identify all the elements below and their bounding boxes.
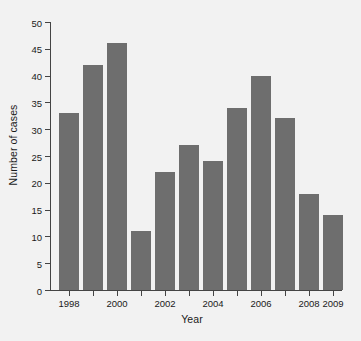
y-axis-tick-label: 45: [31, 44, 42, 55]
x-axis-tick-label: 2006: [250, 298, 271, 309]
x-axis-tick: [261, 291, 262, 296]
x-axis-tick: [309, 291, 310, 296]
y-axis-tick-label: 20: [31, 178, 42, 189]
plot-area: 05101520253035404550 1998200020022004200…: [50, 22, 345, 290]
y-axis-tick: 20: [45, 183, 50, 184]
bar: [203, 161, 223, 290]
x-axis-tick: [213, 291, 214, 296]
bar: [323, 215, 343, 290]
y-axis-tick-label: 40: [31, 71, 42, 82]
y-axis-tick-label: 35: [31, 97, 42, 108]
x-axis-tick-label: 2008: [298, 298, 319, 309]
x-axis-title-text: Year: [181, 313, 203, 325]
y-axis-tick: 25: [45, 156, 50, 157]
bar: [299, 194, 319, 290]
x-axis-tick: [69, 291, 70, 296]
y-axis-tick-label: 50: [31, 17, 42, 28]
y-axis-line: [50, 22, 51, 291]
x-axis-tick: [237, 291, 238, 296]
y-axis-tick: 5: [45, 263, 50, 264]
y-axis-tick: 45: [45, 49, 50, 50]
x-axis-tick: [117, 291, 118, 296]
bar: [251, 76, 271, 290]
y-axis-tick-label: 5: [37, 258, 42, 269]
bar: [59, 113, 79, 290]
y-axis-tick: 50: [45, 22, 50, 23]
x-axis-tick: [165, 291, 166, 296]
bar: [179, 145, 199, 290]
y-axis-tick-label: 0: [37, 285, 42, 296]
x-axis-tick: [333, 291, 334, 296]
y-axis-title-text: Number of cases: [7, 105, 19, 186]
bar: [131, 231, 151, 290]
y-axis-tick-label: 15: [31, 205, 42, 216]
bar: [227, 108, 247, 290]
x-axis-tick-label: 2000: [106, 298, 127, 309]
x-axis-tick: [141, 291, 142, 296]
x-axis-tick-label: 2002: [154, 298, 175, 309]
bar: [83, 65, 103, 290]
y-axis-tick-label: 30: [31, 124, 42, 135]
x-axis-tick-label: 2004: [202, 298, 223, 309]
bar-chart-figure: Number of cases 05101520253035404550 199…: [0, 0, 361, 341]
bar: [155, 172, 175, 290]
x-axis-title: Year: [42, 313, 342, 325]
x-axis-tick: [93, 291, 94, 296]
y-axis-tick: 30: [45, 129, 50, 130]
x-axis-tick: [189, 291, 190, 296]
bar: [275, 118, 295, 290]
y-axis-tick: 0: [45, 290, 50, 291]
y-axis-tick: 35: [45, 102, 50, 103]
y-axis-tick: 15: [45, 210, 50, 211]
y-axis-tick-label: 10: [31, 231, 42, 242]
x-axis-tick-label: 1998: [58, 298, 79, 309]
x-axis-tick-label: 2009: [322, 298, 343, 309]
y-axis-tick: 40: [45, 76, 50, 77]
y-axis-tick-label: 25: [31, 151, 42, 162]
y-axis-title: Number of cases: [4, 0, 22, 290]
x-axis-tick: [285, 291, 286, 296]
y-axis-tick: 10: [45, 236, 50, 237]
bar: [107, 43, 127, 290]
